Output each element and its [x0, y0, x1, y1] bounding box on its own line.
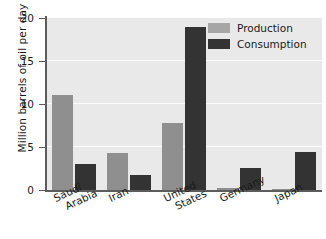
chart-legend: ProductionConsumption [208, 22, 307, 54]
gridline [46, 146, 322, 147]
y-tick-label: 20 [0, 12, 34, 24]
y-tick-mark [39, 18, 45, 19]
y-axis-line [45, 16, 47, 192]
legend-item-consumption: Consumption [208, 38, 307, 50]
y-tick-mark [39, 104, 45, 105]
bar-production-saudi-arabia [52, 95, 73, 190]
y-tick-label: 5 [0, 141, 34, 153]
gridline [46, 60, 322, 61]
y-tick-mark [39, 147, 45, 148]
bar-chart: Million barrels of oil per day 05101520 … [0, 0, 326, 239]
y-tick-label: 15 [0, 55, 34, 67]
bar-consumption-iran [130, 175, 151, 190]
legend-swatch-production [208, 23, 230, 33]
y-tick-mark [39, 190, 45, 191]
y-tick-label: 0 [0, 184, 34, 196]
legend-label: Production [237, 22, 293, 34]
legend-item-production: Production [208, 22, 307, 34]
gridline [46, 103, 322, 104]
bar-consumption-united-states [185, 27, 206, 190]
y-tick-label: 10 [0, 98, 34, 110]
y-tick-mark [39, 61, 45, 62]
bar-production-united-states [162, 123, 183, 190]
legend-swatch-consumption [208, 39, 230, 49]
legend-label: Consumption [237, 38, 307, 50]
gridline [46, 17, 322, 18]
